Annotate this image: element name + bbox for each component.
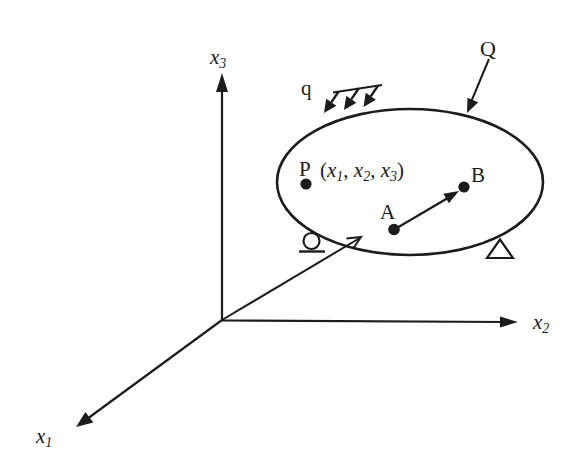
point-p-coordinates: (x1, x2, x3) [320, 158, 404, 184]
axis-x2 [222, 317, 518, 328]
point-a-dot [388, 224, 400, 236]
point-load-line [471, 59, 489, 102]
position-vector-line [222, 239, 359, 321]
axis-x1-line [87, 320, 222, 419]
continuum-body-diagram: x3 x2 x1 q Q P (x1, x2, x3) A B [0, 0, 583, 472]
axis-x2-line [222, 321, 504, 323]
roller-support-circle-icon [304, 233, 320, 249]
axis-x3-label: x3 [209, 45, 226, 71]
distributed-load-arrowhead-icon [344, 96, 356, 110]
point-b-label: B [471, 163, 485, 187]
point-load-q-arrow [467, 59, 489, 113]
axis-x1 [76, 320, 222, 427]
distributed-load-arrowhead-icon [324, 99, 336, 113]
point-load-label: Q [480, 36, 496, 61]
distributed-load-arrowhead-icon [364, 93, 376, 107]
point-a-label: A [380, 200, 396, 224]
axis-x3-arrowhead-icon [216, 73, 228, 92]
point-load-arrowhead-icon [467, 98, 478, 113]
axis-x2-label: x2 [532, 310, 549, 336]
distributed-load-q [324, 85, 382, 113]
position-vector-arrow [222, 237, 361, 320]
point-p-label: P [299, 157, 311, 181]
axis-x1-label: x1 [35, 424, 52, 450]
axis-x2-arrowhead-icon [500, 317, 518, 328]
body-ellipse [277, 109, 543, 255]
vector-ab-arrowhead-icon [443, 191, 459, 203]
distributed-load-arrow-shaft [331, 92, 338, 103]
point-b-dot [458, 181, 469, 192]
axis-x3 [216, 73, 228, 320]
vector-a-to-b [396, 191, 459, 229]
pin-support-triangle-icon [487, 240, 513, 259]
axis-x1-arrowhead-icon [76, 412, 93, 427]
diagram-svg: x3 x2 x1 q Q P (x1, x2, x3) A B [0, 0, 583, 472]
distributed-load-label: q [301, 76, 312, 100]
vector-ab-line [396, 199, 447, 229]
